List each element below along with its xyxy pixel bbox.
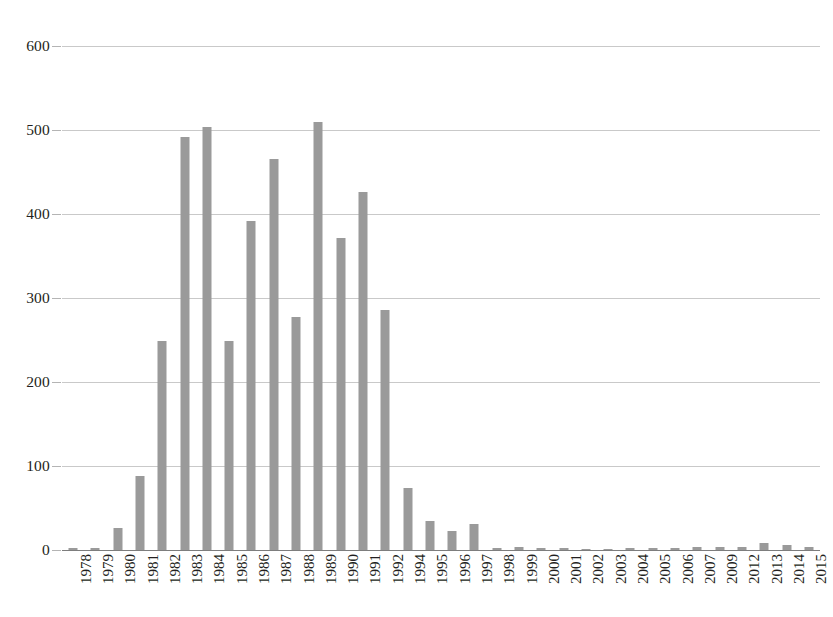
bar <box>358 192 367 550</box>
bar-slot <box>798 46 820 550</box>
x-label-slot: 1981 <box>129 552 151 617</box>
bar-slot <box>374 46 396 550</box>
bar-slot <box>62 46 84 550</box>
x-label-slot: 2003 <box>597 552 619 617</box>
bar <box>69 548 78 550</box>
x-label-slot: 2005 <box>642 552 664 617</box>
x-label-slot: 1994 <box>396 552 418 617</box>
bar <box>336 238 345 550</box>
bar <box>470 524 479 550</box>
bar-slot <box>664 46 686 550</box>
x-label-slot: 1988 <box>285 552 307 617</box>
bar-slot <box>530 46 552 550</box>
y-tick-mark <box>52 550 61 551</box>
bar <box>158 341 167 550</box>
bar <box>492 548 501 550</box>
x-label-slot: 2001 <box>552 552 574 617</box>
bar <box>180 137 189 550</box>
bar <box>671 548 680 550</box>
x-label-slot: 1984 <box>196 552 218 617</box>
x-label-slot: 2007 <box>686 552 708 617</box>
bar <box>136 476 145 550</box>
bar-slot <box>508 46 530 550</box>
y-tick-label: 100 <box>4 458 50 474</box>
x-label-slot: 2004 <box>619 552 641 617</box>
y-tick-label: 300 <box>4 290 50 306</box>
bar-slot <box>352 46 374 550</box>
bar <box>448 531 457 550</box>
bar-slot <box>575 46 597 550</box>
bar-slot <box>619 46 641 550</box>
x-label-slot: 1982 <box>151 552 173 617</box>
bar-slot <box>775 46 797 550</box>
bar-slot <box>419 46 441 550</box>
bar-slot <box>486 46 508 550</box>
x-label-slot: 1990 <box>330 552 352 617</box>
bar <box>715 547 724 550</box>
bar <box>225 341 234 550</box>
bar-slot <box>307 46 329 550</box>
x-label-slot: 2002 <box>575 552 597 617</box>
bar-slot <box>196 46 218 550</box>
x-label-slot: 1985 <box>218 552 240 617</box>
x-label-slot: 1978 <box>62 552 84 617</box>
bar-slot <box>441 46 463 550</box>
bar <box>202 127 211 550</box>
x-label-slot: 1998 <box>486 552 508 617</box>
x-label-slot: 1999 <box>508 552 530 617</box>
x-axis-line <box>62 550 820 551</box>
bar-slot <box>552 46 574 550</box>
x-label-slot: 2014 <box>775 552 797 617</box>
x-label-slot: 1997 <box>463 552 485 617</box>
x-label-slot: 1980 <box>107 552 129 617</box>
bar <box>91 548 100 550</box>
bar <box>425 521 434 550</box>
x-label-slot: 1995 <box>419 552 441 617</box>
x-label-slot: 1986 <box>240 552 262 617</box>
x-label-slot: 2015 <box>798 552 820 617</box>
bar <box>604 549 613 550</box>
x-label-slot: 2006 <box>664 552 686 617</box>
y-tick-mark <box>52 382 61 383</box>
bar-slot <box>709 46 731 550</box>
y-tick-label: 400 <box>4 206 50 222</box>
bar-slot <box>330 46 352 550</box>
bar-slot <box>84 46 106 550</box>
bar-slot <box>753 46 775 550</box>
y-tick-label: 600 <box>4 38 50 54</box>
y-tick-mark <box>52 298 61 299</box>
y-tick-mark <box>52 46 61 47</box>
bar <box>292 317 301 550</box>
bar <box>648 548 657 550</box>
bar-slot <box>240 46 262 550</box>
bar-slot <box>129 46 151 550</box>
bar-slot <box>151 46 173 550</box>
x-label-slot: 2000 <box>530 552 552 617</box>
bar-series <box>62 46 820 550</box>
x-label-slot: 1979 <box>84 552 106 617</box>
y-tick-mark <box>52 466 61 467</box>
x-label-slot: 2012 <box>731 552 753 617</box>
x-tick-label: 2015 <box>814 554 829 584</box>
x-label-slot: 1989 <box>307 552 329 617</box>
bar <box>559 548 568 550</box>
bar-slot <box>731 46 753 550</box>
y-tick-label: 0 <box>4 542 50 558</box>
bar-slot <box>285 46 307 550</box>
x-label-slot: 1983 <box>173 552 195 617</box>
y-tick-label: 200 <box>4 374 50 390</box>
bar-chart: 0100200300400500600 19781979198019811982… <box>0 0 833 617</box>
bar-slot <box>218 46 240 550</box>
bar <box>737 547 746 550</box>
bar-slot <box>642 46 664 550</box>
bar <box>626 548 635 550</box>
bar <box>693 547 702 550</box>
x-label-slot: 1992 <box>374 552 396 617</box>
bar-slot <box>263 46 285 550</box>
bar <box>247 221 256 550</box>
bar-slot <box>463 46 485 550</box>
bar <box>269 159 278 550</box>
x-label-slot: 2009 <box>709 552 731 617</box>
bar <box>537 548 546 550</box>
y-tick-mark <box>52 214 61 215</box>
